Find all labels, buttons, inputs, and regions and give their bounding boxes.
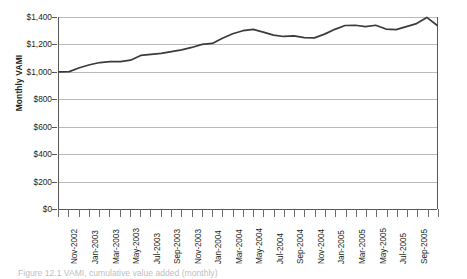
x-tick-mark	[140, 209, 141, 217]
x-tick-mark	[274, 209, 275, 217]
y-tick-mark-1000	[52, 72, 57, 73]
x-tick-label: Sep-2005	[421, 229, 429, 264]
x-tick-mark	[192, 209, 193, 217]
y-tick-mark-1200	[52, 44, 57, 45]
x-tick-mark	[89, 209, 90, 217]
x-tick-mark	[376, 209, 377, 217]
x-tick-label: Sep-2003	[174, 229, 182, 264]
y-tick-mark-400	[52, 154, 57, 155]
x-tick-mark	[315, 209, 316, 217]
x-tick-mark	[79, 209, 80, 217]
x-tick-mark	[304, 209, 305, 217]
x-tick-mark	[284, 209, 285, 217]
x-tick-mark	[202, 209, 203, 217]
y-tick-mark-0	[52, 209, 57, 210]
x-tick-label: Jan-2005	[338, 230, 346, 264]
x-tick-mark	[58, 209, 59, 217]
x-tick-mark	[120, 209, 121, 217]
x-tick-label: Nov-2003	[195, 229, 203, 264]
figure-root: Monthly VAMI $0$200$400$600$800$1,000$1,…	[0, 0, 467, 279]
x-tick-mark	[171, 209, 172, 217]
x-tick-mark	[294, 209, 295, 217]
x-tick-mark	[161, 209, 162, 217]
vami-series-line	[59, 17, 437, 71]
y-axis-tick-labels: $0$200$400$600$800$1,000$1,200$1,400	[0, 0, 58, 279]
y-tick-label-1000: $1,000	[0, 68, 52, 76]
y-tick-label-1200: $1,200	[0, 40, 52, 48]
x-tick-mark	[428, 209, 429, 217]
y-tick-mark-800	[52, 99, 57, 100]
x-tick-mark	[346, 209, 347, 217]
x-tick-label: Nov-2004	[318, 229, 326, 264]
y-tick-label-400: $400	[0, 150, 52, 158]
x-axis-tick-labels: Nov-2002Jan-2003Mar-2003May-2003Jul-2003…	[58, 218, 438, 266]
x-tick-mark	[68, 209, 69, 217]
x-tick-mark	[212, 209, 213, 217]
series-line-chart	[59, 17, 437, 209]
x-tick-label: Jul-2003	[154, 233, 162, 264]
x-tick-mark	[130, 209, 131, 217]
y-tick-mark-1400	[52, 17, 57, 18]
y-tick-label-600: $600	[0, 123, 52, 131]
x-tick-label: May-2003	[133, 228, 141, 264]
y-tick-label-1400: $1,400	[0, 13, 52, 21]
x-tick-label: Mar-2004	[236, 229, 244, 264]
x-tick-mark	[335, 209, 336, 217]
x-tick-mark	[325, 209, 326, 217]
x-tick-label: May-2005	[380, 228, 388, 264]
x-tick-mark	[150, 209, 151, 217]
x-tick-label: Jan-2003	[92, 230, 100, 264]
y-tick-mark-600	[52, 127, 57, 128]
y-tick-label-800: $800	[0, 95, 52, 103]
x-tick-label: Jul-2004	[277, 233, 285, 264]
x-tick-mark	[222, 209, 223, 217]
x-tick-mark	[438, 209, 439, 217]
x-tick-mark	[109, 209, 110, 217]
x-tick-mark	[233, 209, 234, 217]
y-tick-label-200: $200	[0, 178, 52, 186]
x-tick-label: Mar-2005	[359, 229, 367, 264]
x-tick-mark	[181, 209, 182, 217]
x-tick-label: Jan-2004	[215, 230, 223, 264]
x-tick-mark	[407, 209, 408, 217]
x-tick-mark	[417, 209, 418, 217]
x-tick-mark	[366, 209, 367, 217]
y-tick-label-0: $0	[0, 205, 52, 213]
x-axis-tick-marks	[58, 209, 438, 218]
plot-area	[58, 17, 438, 209]
x-tick-mark	[99, 209, 100, 217]
x-tick-mark	[253, 209, 254, 217]
x-tick-label: Jul-2005	[400, 233, 408, 264]
x-tick-mark	[263, 209, 264, 217]
y-tick-mark-200	[52, 182, 57, 183]
x-tick-mark	[243, 209, 244, 217]
x-tick-mark	[397, 209, 398, 217]
x-tick-label: May-2004	[256, 228, 264, 264]
x-tick-mark	[356, 209, 357, 217]
x-tick-label: Nov-2002	[71, 229, 79, 264]
figure-caption: Figure 12.1 VAMI, cumulative value added…	[18, 268, 458, 278]
x-tick-label: Sep-2004	[297, 229, 305, 264]
x-tick-label: Mar-2003	[113, 229, 121, 264]
x-tick-mark	[387, 209, 388, 217]
